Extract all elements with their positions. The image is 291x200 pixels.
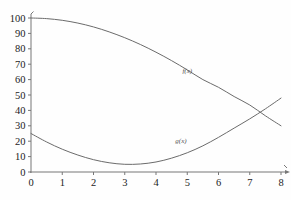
y-tick-label: 60 [15,74,26,85]
chart-plot-area: 0102030405060708090100 012345678 f(x)g(x… [0,0,291,200]
x-tick-label: 2 [91,177,96,188]
x-axis-arrow-icon [285,170,290,174]
x-tick-label: 6 [216,177,221,188]
y-tick-label: 0 [20,167,25,178]
x-tick-label: 4 [153,177,159,188]
curve-series-group [31,18,281,164]
x-tick-label: 3 [122,177,127,188]
x-tick-label: 0 [28,177,33,188]
x-tick-label: 5 [185,177,190,188]
y-tick-label: 90 [15,28,26,39]
series-label-gx: g(x) [175,137,187,145]
y-tick-label: 40 [15,105,26,116]
x-tick-label: 8 [278,177,283,188]
x-axis-arrow-tick [284,165,287,168]
curve-fx [31,18,281,126]
y-axis: 0102030405060708090100 [10,12,34,178]
y-tick-label: 100 [10,13,26,24]
y-tick-label: 20 [15,136,26,147]
curve-gx [31,98,281,164]
y-axis-arrow-icon [31,12,34,15]
x-tick-label: 1 [60,177,65,188]
series-label-fx: f(x) [182,67,192,75]
y-tick-label: 70 [15,59,26,70]
y-tick-label: 10 [15,151,26,162]
x-axis: 012345678 [28,165,290,188]
y-tick-label: 30 [15,120,26,131]
y-tick-label: 50 [15,90,26,101]
x-tick-label: 7 [247,177,252,188]
series-annotations: f(x)g(x) [175,67,192,144]
chart-container: 0102030405060708090100 012345678 f(x)g(x… [0,0,291,200]
y-tick-label: 80 [15,43,26,54]
